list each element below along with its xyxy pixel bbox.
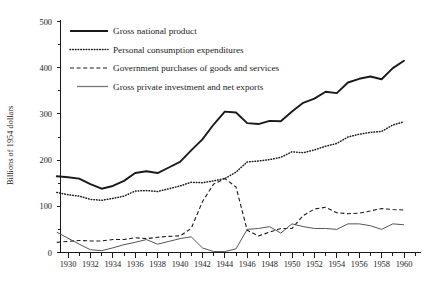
y-tick-label: 500 <box>39 18 52 27</box>
legend-item: Government purchases of goods and servic… <box>70 63 280 73</box>
x-tick-label: 1932 <box>82 260 99 269</box>
legend-label: Gross private investment and net exports <box>113 82 264 92</box>
x-tick-label: 1952 <box>306 260 323 269</box>
x-tick-label: 1956 <box>351 260 368 269</box>
legend-label: Gross national product <box>113 26 197 36</box>
series-line <box>57 224 404 252</box>
x-tick-label: 1960 <box>396 260 413 269</box>
x-tick-label: 1950 <box>284 260 301 269</box>
y-axis-title: Billions of 1954 dollars <box>6 106 15 185</box>
chart-container: Billions of 1954 dollars 010020030040050… <box>0 0 429 291</box>
y-tick-label: 100 <box>39 202 52 211</box>
legend-item: Gross national product <box>70 26 197 36</box>
series-line <box>57 61 404 189</box>
x-tick-label: 1958 <box>373 260 390 269</box>
y-axis-tick-labels: 0100200300400500 <box>39 18 52 258</box>
x-tick-label: 1934 <box>104 260 122 269</box>
y-tick-label: 300 <box>39 110 52 119</box>
x-tick-label: 1954 <box>328 260 346 269</box>
x-tick-label: 1946 <box>239 260 256 269</box>
legend-item: Personal consumption expenditures <box>70 45 244 55</box>
legend-label: Personal consumption expenditures <box>113 45 244 55</box>
series-line <box>57 122 404 201</box>
x-axis-ticks <box>68 253 415 258</box>
y-tick-label: 200 <box>39 156 52 165</box>
legend-label: Government purchases of goods and servic… <box>113 63 280 73</box>
x-tick-label: 1944 <box>216 260 234 269</box>
y-tick-label: 400 <box>39 64 52 73</box>
x-tick-label: 1930 <box>60 260 77 269</box>
x-tick-label: 1942 <box>194 260 211 269</box>
chart-legend: Gross national productPersonal consumpti… <box>70 26 280 92</box>
x-tick-label: 1940 <box>172 260 189 269</box>
x-tick-label: 1948 <box>261 260 278 269</box>
x-tick-label: 1936 <box>127 260 144 269</box>
series-line <box>57 179 404 243</box>
x-tick-label: 1938 <box>149 260 166 269</box>
y-tick-label: 0 <box>48 249 52 258</box>
x-axis-tick-labels: 1930193219341936193819401942194419461948… <box>60 260 413 269</box>
legend-item: Gross private investment and net exports <box>77 82 264 92</box>
y-axis-ticks <box>57 22 61 253</box>
line-chart: Billions of 1954 dollars 010020030040050… <box>0 0 429 291</box>
